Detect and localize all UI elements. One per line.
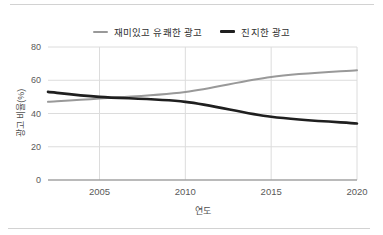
- y-axis-title: 광고 비율(%): [14, 89, 27, 138]
- x-tick-label: 2010: [175, 186, 196, 197]
- line-chart: 0204060802005201020152020: [0, 0, 383, 235]
- bottom-divider: [8, 228, 370, 229]
- x-tick-label: 2020: [346, 186, 367, 197]
- y-tick-label: 80: [31, 42, 41, 52]
- y-tick-label: 0: [36, 175, 41, 185]
- y-tick-label: 20: [31, 142, 41, 152]
- x-tick-label: 2005: [89, 186, 110, 197]
- chart-page: 재미있고 유쾌한 광고 진지한 광고 020406080200520102015…: [0, 0, 383, 235]
- x-tick-label: 2015: [261, 186, 282, 197]
- y-tick-label: 60: [31, 75, 41, 85]
- x-axis-title: 연도: [48, 204, 357, 217]
- y-tick-label: 40: [31, 109, 41, 119]
- series-line-serious-ads: [48, 92, 357, 124]
